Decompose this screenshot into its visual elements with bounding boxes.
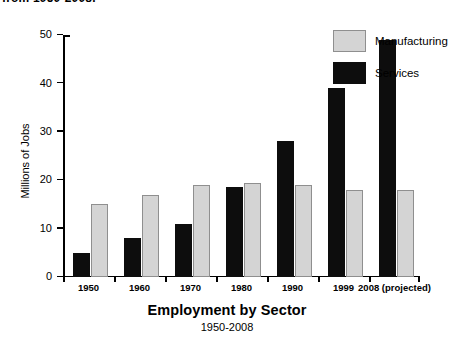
cropped-header-text: from 1950-2008. <box>2 0 96 5</box>
y-tick-label: 0 <box>46 270 52 282</box>
x-tick <box>165 277 167 282</box>
x-tick <box>216 277 218 282</box>
plot-area: 01020304050 <box>63 35 420 277</box>
bar-manufacturing <box>397 190 414 277</box>
x-category-label: 1999 <box>333 282 354 293</box>
y-tick-label: 50 <box>40 28 52 40</box>
bar-services <box>328 88 345 277</box>
y-tick-label: 10 <box>40 222 52 234</box>
bar-services <box>124 238 141 277</box>
x-tick <box>267 277 269 282</box>
bar-manufacturing <box>193 185 210 277</box>
x-category-label: 2008 (projected) <box>358 282 431 293</box>
bar-services <box>277 141 294 277</box>
x-tick <box>114 277 116 282</box>
bar-manufacturing <box>295 185 312 277</box>
y-tick: 30 <box>57 130 63 132</box>
legend-swatch-services <box>333 62 366 84</box>
bar-manufacturing <box>346 190 363 277</box>
legend-swatch-manufacturing <box>333 30 366 52</box>
y-tick: 10 <box>57 227 63 229</box>
y-tick: 40 <box>57 82 63 84</box>
y-tick: 50 <box>57 34 63 36</box>
bar-manufacturing <box>91 204 108 277</box>
y-tick-label: 20 <box>40 173 52 185</box>
legend-label-services: Services <box>375 67 419 79</box>
y-axis-top-cap <box>63 35 70 37</box>
bar-services <box>73 253 90 277</box>
bar-services <box>175 224 192 277</box>
y-axis-line <box>63 35 65 277</box>
x-category-label: 1970 <box>180 282 201 293</box>
x-tick <box>63 277 65 282</box>
legend-label-manufacturing: Manufacturing <box>375 35 448 47</box>
bar-manufacturing <box>244 183 261 277</box>
bar-services <box>226 187 243 277</box>
y-tick-label: 40 <box>40 77 52 89</box>
x-tick <box>318 277 320 282</box>
x-category-label: 1990 <box>282 282 303 293</box>
bar-manufacturing <box>142 195 159 277</box>
x-category-label: 1960 <box>129 282 150 293</box>
y-tick-label: 30 <box>40 125 52 137</box>
chart-subtitle: 1950-2008 <box>0 321 454 333</box>
y-tick: 20 <box>57 179 63 181</box>
chart-page: from 1950-2008. Millions of Jobs 0102030… <box>0 0 454 342</box>
x-category-label: 1950 <box>78 282 99 293</box>
x-category-label: 1980 <box>231 282 252 293</box>
chart-title: Employment by Sector <box>0 302 454 318</box>
y-axis-label: Millions of Jobs <box>19 101 31 221</box>
